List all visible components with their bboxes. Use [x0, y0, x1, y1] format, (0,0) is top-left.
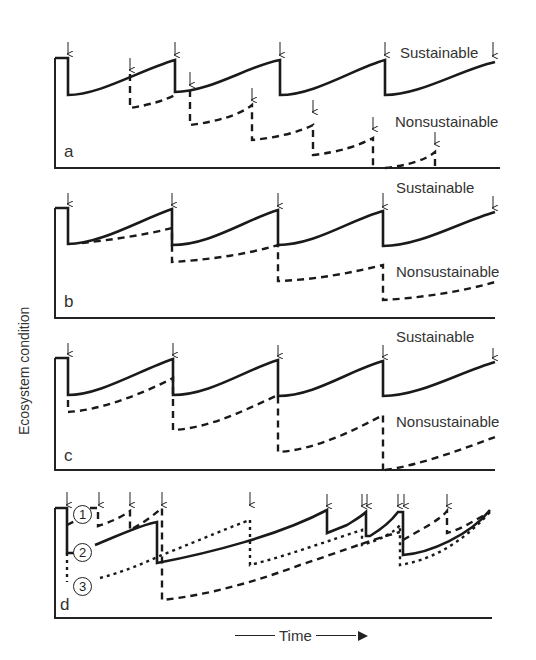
x-axis-label: Time — [235, 627, 368, 644]
scenario-1-marker: 1 — [73, 505, 92, 524]
panel-a-sustainable-line — [55, 58, 495, 95]
scenario-2-marker: 2 — [73, 543, 92, 562]
panel-d-letter: d — [60, 595, 69, 615]
panel-c-letter: c — [64, 446, 73, 466]
panel-d — [55, 492, 492, 618]
panel-c-sustainable-label: Sustainable — [396, 328, 474, 345]
panel-b-sustainable-line — [55, 208, 495, 246]
time-axis-right-line — [316, 635, 356, 637]
panel-c-disturbance-arrows — [68, 343, 493, 358]
panel-d-scenario-1-line — [67, 508, 490, 600]
panel-a-nonsustainable-label: Nonsustainable — [395, 113, 498, 130]
panel-a-sustainable-label: Sustainable — [400, 44, 478, 61]
panel-a-letter: a — [64, 142, 73, 162]
panel-b — [55, 193, 495, 318]
time-axis-text: Time — [279, 627, 312, 644]
scenario-3-marker: 3 — [73, 577, 92, 596]
panel-d-disturbance-arrows — [67, 492, 447, 506]
panel-b-sustainable-label: Sustainable — [396, 179, 474, 196]
panel-b-letter: b — [64, 292, 73, 312]
time-axis-left-line — [235, 635, 275, 637]
time-arrow-icon — [358, 631, 368, 641]
panel-b-nonsustainable-label: Nonsustainable — [396, 263, 499, 280]
panel-c — [55, 343, 495, 470]
panel-c-nonsustainable-label: Nonsustainable — [396, 413, 499, 430]
panel-c-sustainable-line — [55, 358, 495, 396]
panel-d-axes — [55, 508, 492, 618]
y-axis-label: Ecosystem condition — [16, 307, 32, 435]
